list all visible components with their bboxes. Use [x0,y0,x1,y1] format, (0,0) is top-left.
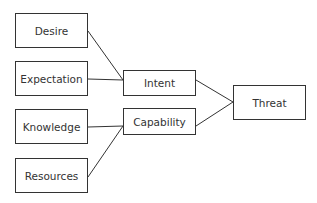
node-label: Threat [252,97,286,109]
edge-expectation-intent [88,79,123,80]
node-label: Resources [25,170,79,182]
node-resources: Resources [15,158,88,193]
node-intent: Intent [123,70,196,96]
node-knowledge: Knowledge [15,109,88,144]
node-label: Expectation [20,73,82,85]
node-threat: Threat [233,85,306,120]
node-label: Capability [133,116,186,128]
node-capability: Capability [123,108,196,135]
node-label: Knowledge [23,121,81,133]
node-expectation: Expectation [15,61,88,96]
edge-resources-capability [88,126,123,177]
edge-desire-intent [88,31,123,80]
node-desire: Desire [15,13,88,48]
edge-knowledge-capability [88,126,123,127]
edge-capability-threat [196,102,233,126]
node-label: Desire [35,25,68,37]
edge-intent-threat [196,80,233,102]
node-label: Intent [144,77,175,89]
